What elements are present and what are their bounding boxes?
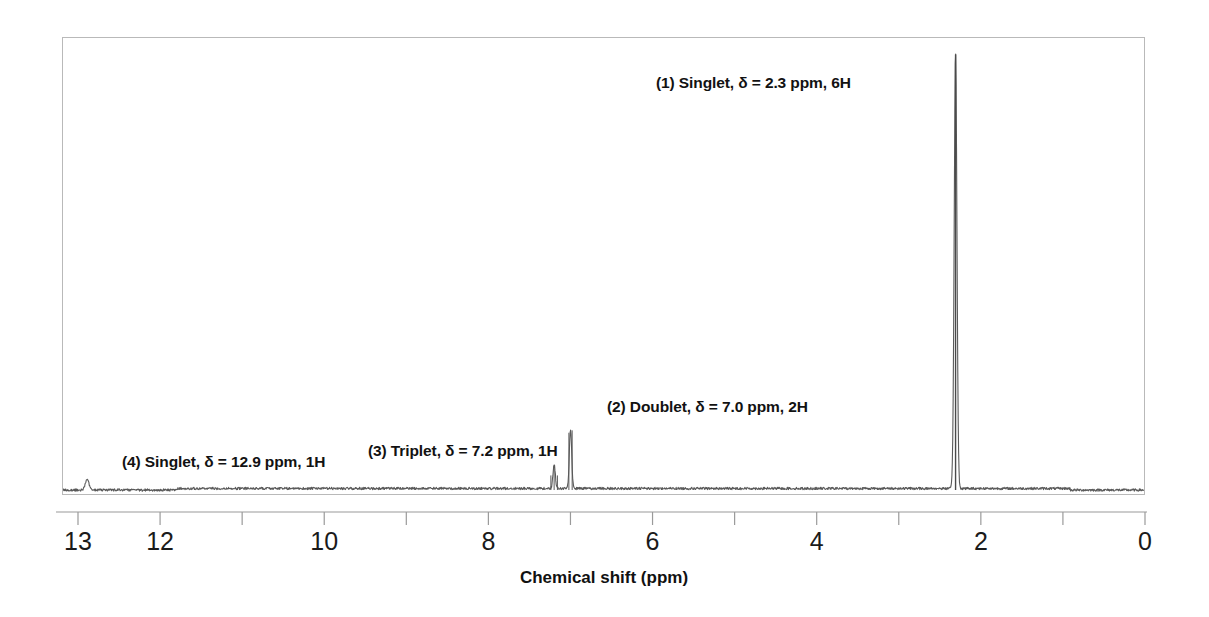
peak-annotation-2: (2) Doublet, δ = 7.0 ppm, 2H bbox=[607, 398, 808, 416]
plot-frame bbox=[62, 37, 1145, 495]
peak-annotation-3: (3) Triplet, δ = 7.2 ppm, 1H bbox=[368, 442, 558, 460]
x-axis-title: Chemical shift (ppm) bbox=[520, 568, 688, 588]
spectrum-trace bbox=[63, 38, 1144, 494]
nmr-spectrum-figure: 13121086420 Chemical shift (ppm) (1) Sin… bbox=[0, 0, 1209, 617]
x-tick-label-0: 0 bbox=[1138, 527, 1152, 556]
x-tick-label-12: 12 bbox=[146, 527, 174, 556]
x-tick-label-2: 2 bbox=[974, 527, 988, 556]
x-tick-label-13: 13 bbox=[64, 527, 92, 556]
x-tick-label-6: 6 bbox=[646, 527, 660, 556]
x-tick-label-10: 10 bbox=[310, 527, 338, 556]
peak-annotation-1: (1) Singlet, δ = 2.3 ppm, 6H bbox=[656, 74, 851, 92]
x-tick-label-8: 8 bbox=[481, 527, 495, 556]
peak-annotation-4: (4) Singlet, δ = 12.9 ppm, 1H bbox=[122, 453, 325, 471]
x-tick-label-4: 4 bbox=[810, 527, 824, 556]
